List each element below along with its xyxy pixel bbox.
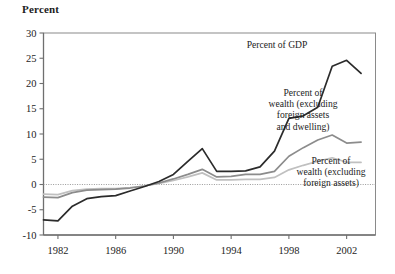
y-tick-label: 25 [26, 53, 37, 64]
x-tick-label: 1994 [221, 245, 243, 256]
label-percent-of-gdp: Percent of GDP [247, 39, 308, 50]
annotation-line: wealth (excluding [269, 98, 338, 110]
annotation-line: and dwelling) [276, 121, 329, 133]
x-axis-ticks: 198219861990199419982002 [47, 235, 357, 256]
x-tick-label: 1986 [105, 245, 126, 256]
annotation-line: wealth (excluding [297, 166, 366, 178]
line-chart-plot: -10-5051015202530 1982198619901994199820… [0, 0, 395, 274]
annotation-line: Percent of GDP [247, 39, 308, 50]
annotation-line: foreign assets [277, 109, 330, 120]
label-wealth-ex-foreign: Percent ofwealth (excludingforeign asset… [297, 155, 366, 189]
x-tick-label: 1990 [163, 245, 184, 256]
annotation-line: foreign assets) [303, 177, 359, 189]
x-tick-label: 2002 [336, 245, 357, 256]
plot-frame [44, 33, 376, 235]
series-line [44, 60, 362, 221]
y-tick-label: 0 [31, 179, 36, 190]
y-tick-label: 20 [26, 78, 37, 89]
x-tick-label: 1998 [278, 245, 299, 256]
y-tick-label: 10 [26, 129, 37, 140]
y-axis-ticks: -10-5051015202530 [23, 28, 44, 241]
label-wealth-ex-foreign-and-dwelling: Percent ofwealth (excludingforeign asset… [269, 87, 338, 133]
x-tick-label: 1982 [47, 245, 68, 256]
y-tick-label: 15 [26, 103, 37, 114]
y-tick-label: 30 [26, 28, 37, 39]
y-tick-label: 5 [31, 154, 36, 165]
y-tick-label: -10 [23, 230, 37, 241]
chart-figure: Percent -10-5051015202530 19821986199019… [0, 0, 395, 274]
data-series-group [44, 60, 362, 221]
annotation-line: Percent of [311, 155, 351, 166]
y-tick-label: -5 [28, 204, 37, 215]
annotation-line: Percent of [283, 87, 323, 98]
